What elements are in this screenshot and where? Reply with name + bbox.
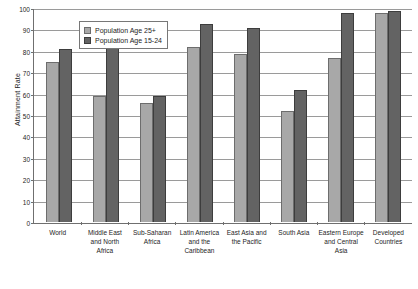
y-axis-tick-label: 30 [23, 155, 30, 162]
x-axis-category-labels: WorldMiddle East and North AfricaSub-Sah… [34, 228, 412, 255]
y-axis-tick-label: 90 [23, 27, 30, 34]
bar [106, 24, 119, 222]
bar [187, 47, 200, 222]
y-axis-tick-mark [31, 73, 34, 74]
y-axis-tick-label: 40 [23, 134, 30, 141]
legend: Population Age 25+ Population Age 15-24 [79, 21, 168, 49]
y-axis-tick-mark [31, 159, 34, 160]
x-axis-tick-mark [364, 222, 365, 225]
bar [247, 28, 260, 222]
y-axis-tick-mark [31, 137, 34, 138]
bar [388, 11, 401, 222]
y-axis-tick-label: 20 [23, 177, 30, 184]
y-axis-tick-mark [31, 52, 34, 53]
y-axis-tick-mark [31, 30, 34, 31]
x-axis-tick-mark [270, 222, 271, 225]
bar [93, 96, 106, 222]
x-axis-category-label: Latin America and the Caribbean [176, 228, 223, 255]
bar-group [176, 9, 223, 222]
bar-group [224, 9, 271, 222]
y-axis-tick-mark [31, 202, 34, 203]
y-axis-tick-mark [31, 116, 34, 117]
x-axis-tick-mark [128, 222, 129, 225]
x-axis-tick-mark [175, 222, 176, 225]
x-axis-category-label: World [34, 228, 81, 255]
y-axis-tick-mark [31, 223, 34, 224]
bar-chart: Attainment Rate 0102030405060708090100 W… [0, 0, 418, 289]
x-axis-category-label: East Asia and the Pacific [223, 228, 270, 255]
y-axis-tick-mark [31, 95, 34, 96]
bar [153, 96, 166, 222]
x-axis-category-label: Middle East and North Africa [81, 228, 128, 255]
bar [46, 62, 59, 222]
legend-label-series-0: Population Age 25+ [95, 27, 156, 34]
y-axis-tick-label: 60 [23, 91, 30, 98]
y-axis-tick-label: 0 [26, 220, 30, 227]
bar-group [365, 9, 412, 222]
x-axis-category-label: Developed Countries [365, 228, 412, 255]
legend-label-series-1: Population Age 15-24 [95, 37, 162, 44]
bar-group [271, 9, 318, 222]
y-axis-tick-mark [31, 180, 34, 181]
y-axis-tick-label: 100 [19, 6, 30, 13]
legend-item-series-1: Population Age 15-24 [84, 35, 162, 45]
bar-group [318, 9, 365, 222]
bar [328, 58, 341, 222]
bar [200, 24, 213, 222]
x-axis-category-label: Eastern Europe and Central Asia [318, 228, 365, 255]
bar [59, 49, 72, 222]
x-axis-category-label: Sub-Saharan Africa [129, 228, 176, 255]
x-axis-tick-mark [81, 222, 82, 225]
bar [140, 103, 153, 222]
y-axis-tick-mark [31, 9, 34, 10]
bar [341, 13, 354, 222]
legend-swatch-icon-series-1 [84, 37, 91, 44]
x-axis-category-label: South Asia [270, 228, 317, 255]
y-axis-tick-label: 10 [23, 198, 30, 205]
y-axis-tick-label: 80 [23, 48, 30, 55]
y-axis-tick-label: 50 [23, 113, 30, 120]
bar [281, 111, 294, 222]
y-axis-tick-label: 70 [23, 70, 30, 77]
legend-swatch-icon-series-0 [84, 27, 91, 34]
bar-group [35, 9, 82, 222]
x-axis-tick-mark [223, 222, 224, 225]
legend-item-series-0: Population Age 25+ [84, 25, 162, 35]
bar [294, 90, 307, 222]
y-axis-title: Attainment Rate [14, 45, 21, 155]
x-axis-tick-mark [317, 222, 318, 225]
bar [234, 54, 247, 222]
bar [375, 13, 388, 222]
